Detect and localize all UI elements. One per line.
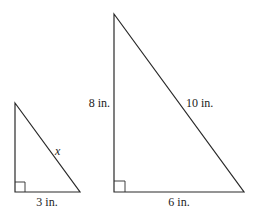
similar-triangles-figure: 3 in. x 8 in. 10 in. 6 in. [0, 0, 263, 216]
small-base-label: 3 in. [36, 195, 57, 209]
large-height-label: 8 in. [89, 96, 110, 110]
large-base-label: 6 in. [168, 195, 189, 209]
large-triangle: 8 in. 10 in. 6 in. [89, 14, 244, 209]
large-triangle-outline [114, 14, 244, 192]
small-triangle-outline [15, 103, 80, 192]
small-hypotenuse-label: x [54, 144, 61, 158]
small-triangle: 3 in. x [15, 103, 80, 209]
large-hypotenuse-label: 10 in. [186, 96, 213, 110]
small-right-angle-marker [15, 182, 25, 192]
large-right-angle-marker [114, 181, 125, 192]
